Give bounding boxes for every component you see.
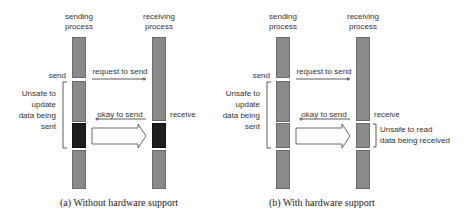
panel-without-hardware-support: sending process receiving process send r… (0, 0, 234, 218)
unsafe-bracket-icon (267, 82, 271, 148)
data-block-arrow-icon (296, 124, 350, 148)
caption-a: (a) Without hardware support (60, 197, 178, 208)
caption-b: (b) With hardware support (269, 197, 375, 208)
panel-a-arrows (0, 0, 234, 218)
unsafe-bracket-icon (63, 82, 67, 148)
panel-with-hardware-support: sending process receiving process send r… (234, 0, 468, 218)
unsafe-read-bracket-icon (373, 124, 376, 147)
data-block-arrow-icon (92, 124, 146, 148)
panel-b-arrows (234, 0, 468, 218)
